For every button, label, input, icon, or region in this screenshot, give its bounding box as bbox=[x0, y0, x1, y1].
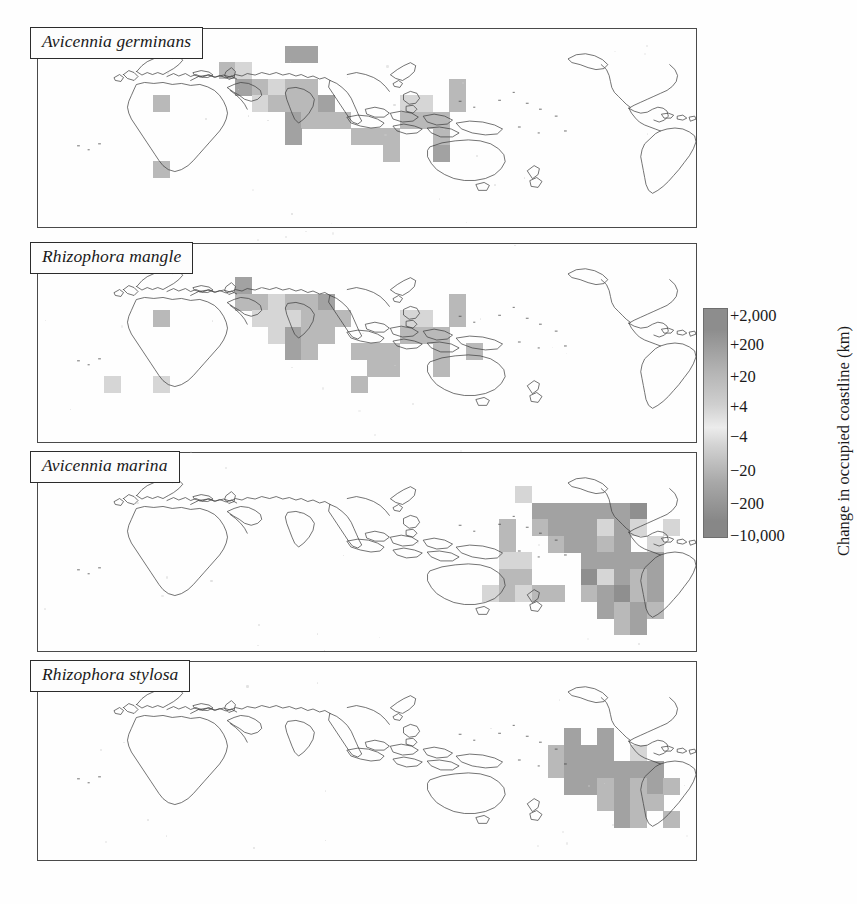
grid-cell bbox=[647, 569, 664, 586]
grid-cell bbox=[581, 503, 598, 520]
grid-cell bbox=[597, 602, 614, 619]
grid-cell bbox=[532, 519, 549, 536]
grid-cell bbox=[268, 79, 285, 96]
grid-cell bbox=[416, 95, 433, 112]
grid-cell bbox=[466, 343, 483, 360]
grid-cell bbox=[499, 585, 516, 602]
scan-speckle bbox=[552, 347, 553, 348]
grid-cell bbox=[301, 95, 318, 112]
grid-cell bbox=[515, 585, 532, 602]
grid-cell bbox=[351, 376, 368, 393]
scan-speckle bbox=[267, 120, 269, 122]
grid-cell bbox=[400, 310, 417, 327]
scan-speckle bbox=[136, 502, 138, 504]
grid-cell bbox=[630, 761, 647, 778]
grid-cell bbox=[268, 327, 285, 344]
grid-cell bbox=[301, 46, 318, 63]
grid-cell bbox=[285, 79, 302, 96]
grid-cell bbox=[581, 552, 598, 569]
grid-cell bbox=[433, 327, 450, 344]
grid-cell bbox=[647, 602, 664, 619]
grid-cell bbox=[630, 794, 647, 811]
grid-cell bbox=[433, 112, 450, 129]
grid-cell bbox=[597, 761, 614, 778]
mangrove-distribution-figure: Avicennia germinans Rhizophora mangle bbox=[0, 0, 857, 904]
grid-cell bbox=[285, 46, 302, 63]
grid-cell bbox=[515, 569, 532, 586]
scan-speckle bbox=[462, 82, 464, 84]
grid-cell bbox=[104, 376, 121, 393]
scan-speckle bbox=[161, 595, 164, 598]
grid-cell bbox=[630, 778, 647, 795]
grid-cell bbox=[301, 343, 318, 360]
grid-cell bbox=[597, 778, 614, 795]
scan-speckle bbox=[386, 65, 389, 68]
grid-cell bbox=[400, 112, 417, 129]
grid-cell bbox=[235, 277, 252, 294]
grid-cell bbox=[153, 161, 170, 178]
species-label-2: Rhizophora mangle bbox=[30, 242, 193, 274]
legend: +2,000 +200 +20 +4 −4 −20 −200 −10,000 C… bbox=[700, 300, 857, 550]
grid-cell bbox=[564, 503, 581, 520]
grid-cell bbox=[647, 552, 664, 569]
grid-cell bbox=[614, 761, 631, 778]
grid-cell bbox=[647, 778, 664, 795]
scan-speckle bbox=[358, 410, 360, 412]
grid-cell bbox=[301, 294, 318, 311]
grid-cell bbox=[630, 503, 647, 520]
scan-speckle bbox=[638, 643, 640, 645]
grid-cell bbox=[153, 376, 170, 393]
scan-speckle bbox=[317, 633, 318, 634]
grid-cell bbox=[548, 536, 565, 553]
grid-cell bbox=[252, 310, 269, 327]
grid-cell bbox=[285, 294, 302, 311]
grid-cell bbox=[614, 536, 631, 553]
scan-speckle bbox=[252, 189, 254, 191]
scan-speckle bbox=[644, 53, 646, 55]
grid-cell bbox=[285, 310, 302, 327]
grid-cell bbox=[630, 519, 647, 536]
grid-cell bbox=[235, 62, 252, 79]
grid-cell bbox=[564, 778, 581, 795]
grid-cell bbox=[647, 536, 664, 553]
scan-speckle bbox=[166, 835, 168, 837]
scan-speckle bbox=[647, 133, 649, 135]
scan-speckle bbox=[343, 555, 344, 556]
scan-speckle bbox=[257, 239, 259, 241]
grid-cell bbox=[597, 503, 614, 520]
colorbar-tick-7: −10,000 bbox=[730, 528, 785, 545]
grid-cell bbox=[597, 585, 614, 602]
grid-cell bbox=[383, 128, 400, 145]
grid-cell bbox=[449, 95, 466, 112]
data-grid-panel-1 bbox=[38, 29, 696, 227]
grid-cell bbox=[301, 112, 318, 129]
scan-speckle bbox=[253, 847, 255, 849]
scan-speckle bbox=[121, 325, 123, 327]
scan-speckle bbox=[246, 685, 249, 688]
grid-cell bbox=[597, 745, 614, 762]
grid-cell bbox=[597, 552, 614, 569]
grid-cell bbox=[647, 761, 664, 778]
grid-cell bbox=[614, 602, 631, 619]
grid-cell bbox=[630, 602, 647, 619]
scan-speckle bbox=[44, 608, 46, 610]
colorbar-tick-6: −200 bbox=[730, 496, 764, 513]
scan-speckle bbox=[612, 824, 614, 826]
grid-cell bbox=[334, 112, 351, 129]
grid-cell bbox=[153, 95, 170, 112]
scan-speckle bbox=[686, 835, 688, 837]
grid-cell bbox=[581, 745, 598, 762]
grid-cell bbox=[433, 360, 450, 377]
grid-cell bbox=[252, 95, 269, 112]
grid-cell bbox=[630, 745, 647, 762]
grid-cell bbox=[614, 519, 631, 536]
grid-cell bbox=[318, 294, 335, 311]
grid-cell bbox=[499, 536, 516, 553]
grid-cell bbox=[318, 310, 335, 327]
grid-cell bbox=[614, 552, 631, 569]
scan-speckle bbox=[400, 712, 402, 714]
grid-cell bbox=[268, 294, 285, 311]
colorbar bbox=[703, 308, 728, 538]
grid-cell bbox=[153, 310, 170, 327]
grid-cell bbox=[548, 761, 565, 778]
